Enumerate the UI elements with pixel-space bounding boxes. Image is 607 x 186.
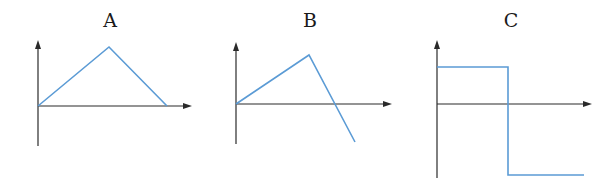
x-axis-arrow-icon [583,101,592,107]
graph-b-curve [236,55,355,142]
y-axis-arrow-icon [233,42,239,51]
graph-c [434,40,592,178]
x-axis-arrow-icon [383,101,392,107]
graphs-canvas [0,0,607,186]
graph-a-curve [38,47,167,106]
graph-c-curve [437,67,584,175]
y-axis-arrow-icon [434,40,440,49]
y-axis-arrow-icon [35,40,41,49]
x-axis-arrow-icon [183,103,192,109]
graph-a [35,40,192,146]
graph-b [233,42,392,144]
